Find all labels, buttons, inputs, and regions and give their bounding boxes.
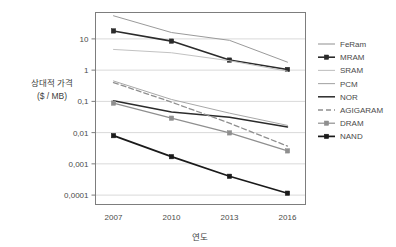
data-point-marker [227, 131, 231, 135]
x-axis-title: 연도 [192, 232, 208, 242]
plot-frame [96, 13, 306, 205]
gridlines-group [96, 39, 306, 195]
legend-marker [324, 121, 328, 125]
legend-item-label[interactable]: DRAM [340, 119, 364, 128]
x-axis-tick-label: 2007 [105, 213, 123, 222]
series-line-dram [114, 103, 288, 151]
data-point-marker [111, 29, 115, 33]
price-trend-line-chart: 1010,10,010,0010,0001 2007201020132016 상… [0, 0, 396, 247]
legend-item-label[interactable]: PCM [340, 80, 358, 89]
data-point-marker [169, 116, 173, 120]
y-axis-title-line2: ($ / MB) [37, 91, 67, 101]
legend-item-label[interactable]: MRAM [340, 53, 365, 62]
data-point-marker [111, 133, 115, 137]
y-axis-tick-label: 0,001 [68, 160, 89, 169]
y-axis-ticks [92, 39, 96, 195]
legend-item-label[interactable]: NAND [340, 132, 363, 141]
legend-item-label[interactable]: NOR [340, 93, 358, 102]
legend-marker [324, 134, 328, 138]
series-line-nor [114, 101, 288, 127]
chart-legend: FeRamMRAMSRAMPCMNORAGIGARAMDRAMNAND [318, 40, 383, 141]
data-point-marker [227, 174, 231, 178]
legend-item-label[interactable]: AGIGARAM [340, 106, 383, 115]
legend-item-label[interactable]: FeRam [340, 40, 367, 49]
series-line-nand [114, 136, 288, 194]
y-axis-tick-label: 0,01 [73, 129, 89, 138]
y-axis-tick-labels: 1010,10,010,0010,0001 [64, 35, 89, 200]
series-line-pcm [114, 81, 288, 125]
y-axis-tick-label: 0,0001 [64, 191, 89, 200]
data-series-group [111, 16, 289, 196]
chart-container: 1010,10,010,0010,0001 2007201020132016 상… [0, 0, 396, 247]
x-axis-tick-labels: 2007201020132016 [105, 213, 297, 222]
data-point-marker [169, 154, 173, 158]
x-axis-tick-label: 2010 [163, 213, 181, 222]
data-point-marker [169, 39, 173, 43]
legend-marker [324, 55, 328, 59]
legend-item-label[interactable]: SRAM [340, 66, 363, 75]
y-axis-title-line1: 상대적 가격 [31, 78, 73, 88]
y-axis-tick-label: 0,1 [77, 97, 89, 106]
y-axis-tick-label: 1 [84, 66, 89, 75]
data-point-marker [285, 191, 289, 195]
data-point-marker [285, 149, 289, 153]
x-axis-tick-label: 2016 [279, 213, 297, 222]
data-point-marker [111, 101, 115, 105]
y-axis-tick-label: 10 [80, 35, 89, 44]
x-axis-tick-label: 2013 [221, 213, 239, 222]
